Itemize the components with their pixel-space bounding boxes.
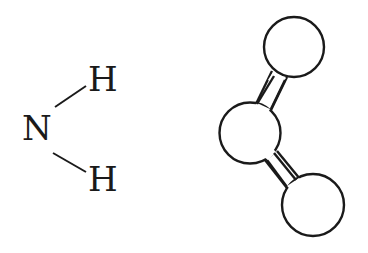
- bond-line-bottom: [53, 153, 86, 172]
- atom-label-h-bottom: H: [88, 159, 118, 199]
- ball-and-stick-model: [220, 17, 345, 236]
- structural-formula: N H H: [22, 59, 118, 199]
- atom-label-n: N: [22, 108, 52, 148]
- atom-label-h-top: H: [88, 59, 118, 99]
- ball-atom-top: [264, 17, 324, 77]
- diagram-canvas: N H H: [0, 0, 368, 253]
- molecule-diagram: N H H: [0, 0, 368, 253]
- bond-line-top: [55, 86, 86, 107]
